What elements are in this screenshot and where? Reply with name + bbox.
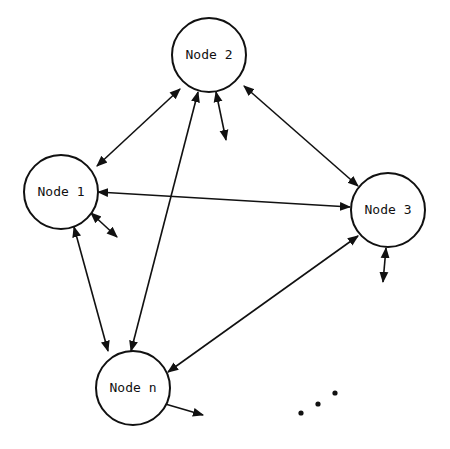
network-diagram: Node 2 Node 1 Node 3 Node n [0,0,450,449]
ellipsis-dot-3 [332,390,337,395]
node-3[interactable]: Node 3 [351,173,425,247]
edge-node1-noden-bidirectional-arrow-icon [74,227,108,351]
external-link-node1-bidirectional-arrow-icon [91,213,117,237]
edges-group [74,86,358,372]
ellipsis-dot-2 [315,401,320,406]
external-link-node2-bidirectional-arrow-icon [216,92,226,140]
node-2[interactable]: Node 2 [172,18,246,92]
edge-node1-node3-bidirectional-arrow-icon [98,192,350,207]
edge-node2-noden-bidirectional-arrow-icon [131,92,198,351]
edge-node2-node3-bidirectional-arrow-icon [244,86,358,186]
ellipsis-dot-1 [298,410,303,415]
edge-node3-noden-bidirectional-arrow-icon [168,236,358,372]
nodes-group: Node 2 Node 1 Node 3 Node n [24,18,425,425]
external-link-node3-bidirectional-arrow-icon [383,248,386,282]
ellipsis-dots [298,390,337,415]
node-3-label: Node 3 [365,202,412,217]
node-2-label: Node 2 [186,47,233,62]
node-n-label: Node n [110,380,157,395]
node-1[interactable]: Node 1 [24,155,98,229]
edge-node1-node2-bidirectional-arrow-icon [97,89,180,166]
node-n[interactable]: Node n [96,351,170,425]
node-1-label: Node 1 [38,184,85,199]
